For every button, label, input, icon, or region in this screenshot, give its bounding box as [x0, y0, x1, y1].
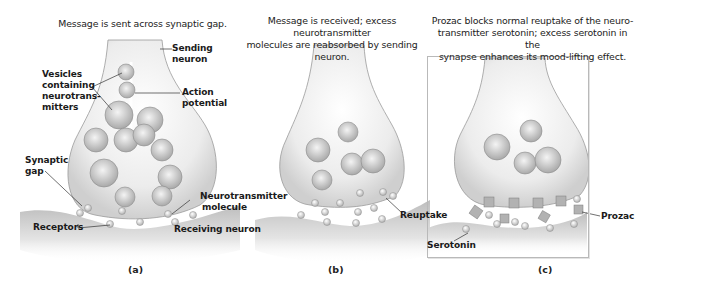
panel-letter-a: (a): [128, 264, 143, 275]
panel-b-illustration: [255, 45, 430, 264]
caption-b: Message is received; excess neurotransmi…: [232, 15, 432, 63]
caption-c: Prozac blocks normal reuptake of the neu…: [430, 15, 635, 63]
caption-b-line-1: Message is received; excess neurotransmi…: [232, 15, 432, 39]
label-vesicles: Vesiclescontaining neurotrans-mitters: [42, 69, 101, 113]
label-action-potential: Actionpotential: [182, 87, 227, 109]
label-prozac: Prozac: [601, 211, 634, 222]
caption-c-line-1: Prozac blocks normal reuptake of the neu…: [430, 15, 635, 27]
caption-a: Message is sent across synaptic gap.: [55, 18, 230, 30]
label-sending-neuron: Sendingneuron: [172, 43, 213, 65]
label-neurotransmitter-molecule: Neurotransmitter molecule: [200, 191, 287, 213]
label-receptors: Receptors: [33, 222, 83, 233]
label-reuptake: Reuptake: [400, 210, 447, 221]
panel-c-frame: [427, 56, 589, 258]
label-serotonin: Serotonin: [427, 240, 476, 251]
panel-letter-b: (b): [328, 264, 343, 275]
caption-b-line-2: molecules are reabsorbed by sending neur…: [232, 39, 432, 63]
caption-c-line-3: synapse enhances its mood-lifting effect…: [430, 51, 635, 63]
caption-c-line-2: transmitter serotonin; excess serotonin …: [430, 27, 635, 51]
label-synaptic-gap: Synapticgap: [25, 155, 68, 177]
label-receiving-neuron: Receiving neuron: [174, 224, 261, 235]
panel-letter-c: (c): [538, 264, 552, 275]
